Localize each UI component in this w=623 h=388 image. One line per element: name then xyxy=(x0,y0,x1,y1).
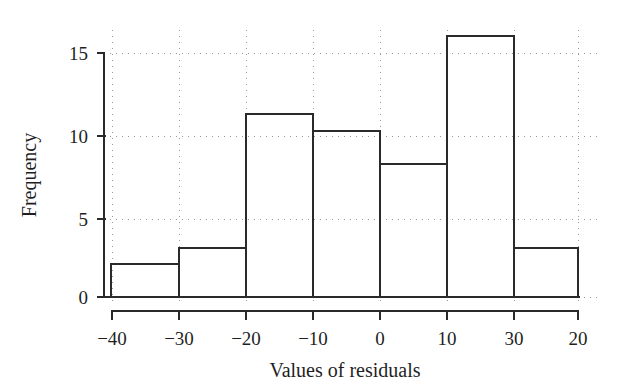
y-axis-title: Frequency xyxy=(18,133,41,217)
y-tick-label-5: 5 xyxy=(79,209,89,230)
x-axis-title: Values of residuals xyxy=(269,359,420,381)
x-tick-label-6: 10 xyxy=(438,328,457,349)
x-tick-label-5: 0 xyxy=(375,328,385,349)
y-tick-label-15: 15 xyxy=(69,43,88,64)
x-tick-label-7: 30 xyxy=(505,328,524,349)
chart-canvas: 15 10 5 0 −40 −30 −20 −10 0 10 30 20 Val… xyxy=(0,0,623,388)
x-tick-label-2: −30 xyxy=(164,328,194,349)
x-tick-label-3: −20 xyxy=(231,328,261,349)
x-tick-label-1: −40 xyxy=(97,328,127,349)
histogram-chart: 15 10 5 0 −40 −30 −20 −10 0 10 30 20 Val… xyxy=(0,0,623,388)
x-tick-label-4: −10 xyxy=(298,328,328,349)
y-tick-label-0: 0 xyxy=(79,287,89,308)
x-tick-label-8: 20 xyxy=(569,328,588,349)
y-tick-label-10: 10 xyxy=(69,126,88,147)
